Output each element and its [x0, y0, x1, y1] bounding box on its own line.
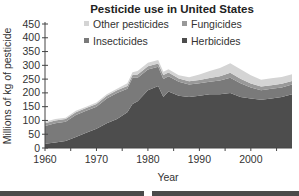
legend-swatch — [84, 21, 89, 26]
legend-label: Insecticides — [93, 35, 148, 47]
x-tick-label: 1960 — [33, 153, 57, 165]
y-tick-label: 150 — [22, 100, 40, 112]
y-tick-label: 100 — [22, 114, 40, 126]
x-tick-label: 2000 — [239, 153, 263, 165]
y-tick-label: 400 — [22, 31, 40, 43]
y-tick-label: 300 — [22, 59, 40, 71]
pesticide-chart: 0501001502002503003504004501960197019801… — [0, 0, 299, 196]
stacked-areas — [45, 60, 292, 148]
y-tick-label: 50 — [28, 128, 40, 140]
x-tick-label: 1980 — [136, 153, 160, 165]
legend: Other pesticidesFungicidesInsecticidesHe… — [84, 18, 242, 47]
legend-label: Herbicides — [191, 35, 241, 47]
x-axis-label: Year — [157, 171, 179, 183]
legend-label: Fungicides — [191, 18, 242, 30]
legend-swatch — [182, 21, 187, 26]
legend-swatch — [84, 38, 89, 43]
y-axis-label: Millions of kg of pesticide — [1, 27, 13, 144]
y-tick-label: 250 — [22, 73, 40, 85]
y-tick-label: 450 — [22, 18, 40, 30]
x-tick-label: 1990 — [188, 153, 212, 165]
y-tick-label: 350 — [22, 45, 40, 57]
bottom-divider-left — [0, 191, 144, 196]
x-tick-label: 1970 — [85, 153, 109, 165]
bottom-divider-right — [152, 191, 299, 196]
legend-swatch — [182, 38, 187, 43]
y-tick-label: 200 — [22, 86, 40, 98]
legend-label: Other pesticides — [93, 18, 169, 30]
y-tick-label: 0 — [34, 142, 40, 154]
chart-title: Pesticide use in United States — [90, 3, 254, 15]
